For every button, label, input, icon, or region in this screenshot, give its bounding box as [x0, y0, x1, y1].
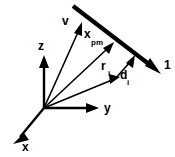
axis-x-line — [20, 108, 44, 137]
ray-label-l: 1 — [164, 58, 171, 72]
vector-label-v: v — [62, 14, 69, 28]
vector-label-x-pm-subscript: pm — [91, 38, 103, 47]
vector-x-pm — [44, 42, 114, 108]
vector-label-x-pm: x — [84, 27, 91, 41]
axis-x — [13, 108, 44, 144]
vector-label-d-i-subscript: i — [127, 78, 129, 87]
axis-z-arrowhead — [39, 55, 49, 68]
vector-label-r-i: r — [101, 59, 106, 73]
axis-label-z: z — [38, 39, 44, 53]
vector-x-pm-line — [44, 49, 107, 108]
vector-label-r-i-subscript: i — [108, 69, 110, 78]
vector-diagram: z y x 1 v x pm r i d i — [0, 0, 175, 157]
vector-v-arrowhead — [74, 22, 82, 36]
axis-label-x: x — [22, 140, 29, 154]
axis-y-arrowhead — [86, 103, 99, 113]
axis-label-y: y — [104, 101, 111, 115]
diagram-canvas: z y x 1 v x pm r i d i — [0, 0, 175, 157]
